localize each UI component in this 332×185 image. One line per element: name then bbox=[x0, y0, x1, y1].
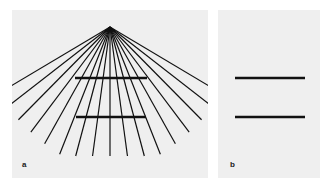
radial-ray-line bbox=[110, 27, 175, 144]
radial-ray-line bbox=[110, 27, 144, 156]
radial-ray-line bbox=[45, 27, 110, 144]
panel-a-ponzo-illusion: a bbox=[12, 10, 208, 178]
converging-rays-figure bbox=[12, 10, 208, 178]
panel-label-a: a bbox=[22, 160, 26, 169]
panel-b-plain-bars: b bbox=[218, 10, 320, 178]
radial-ray-line bbox=[12, 27, 110, 107]
plain-bars-figure bbox=[218, 10, 320, 178]
radial-ray-line bbox=[110, 27, 208, 107]
radial-ray-line bbox=[76, 27, 110, 156]
panel-label-b: b bbox=[230, 160, 235, 169]
